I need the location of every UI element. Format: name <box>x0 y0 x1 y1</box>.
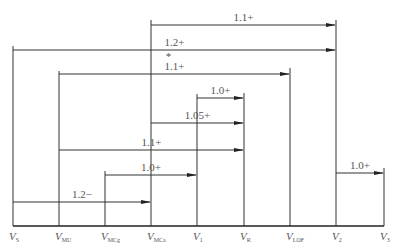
ratio-label: 1.0+ <box>350 159 370 171</box>
ratio-note-asterisk: * <box>166 50 172 62</box>
speed-label-vr: VR <box>240 230 251 243</box>
speed-subscript-vmu: MU <box>62 237 72 243</box>
speed-label-vmu: VMU <box>55 230 72 243</box>
ratio-label: 1.0+ <box>211 84 231 96</box>
speed-label-v2: V2 <box>332 230 342 243</box>
ratio-label: 1.1+ <box>234 11 254 23</box>
ratio-label: 1.2+ <box>165 36 185 48</box>
speed-relationship-diagram: 1.1+1.2+1.1+*1.0+1.05+1.1+1.0+1.0+1.2− V… <box>0 0 401 248</box>
speed-label-v1: V1 <box>193 230 203 243</box>
speed-subscript-vr: R <box>247 237 251 243</box>
speed-label-vmcg: VMCg <box>101 230 120 243</box>
speed-subscript-vmcg: MCg <box>108 237 120 243</box>
speed-subscript-v2: 2 <box>339 237 342 243</box>
speed-labels: VSVMUVMCgVMCaV1VRVLOFV2V3 <box>9 230 390 243</box>
ratio-label: 1.05+ <box>185 109 210 121</box>
speed-subscript-vs: S <box>16 237 19 243</box>
ratio-arrows: 1.1+1.2+1.1+*1.0+1.05+1.1+1.0+1.0+1.2− <box>13 11 383 202</box>
ratio-label: 1.1+ <box>142 136 162 148</box>
speed-subscript-vlof: LOF <box>293 237 305 243</box>
ratio-label: 1.0+ <box>141 161 161 173</box>
speed-label-v3: V3 <box>380 230 390 243</box>
speed-subscript-v3: 3 <box>387 237 390 243</box>
speed-label-vlof: VLOF <box>286 230 305 243</box>
ratio-label: 1.2− <box>72 188 92 200</box>
speed-label-vmca: VMCa <box>147 230 166 243</box>
speed-label-vs: VS <box>9 230 19 243</box>
speed-subscript-v1: 1 <box>200 237 203 243</box>
speed-subscript-vmca: MCa <box>154 237 166 243</box>
